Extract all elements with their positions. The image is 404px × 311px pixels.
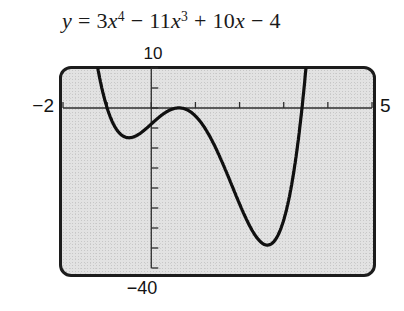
- equation-segment: + 10: [188, 8, 235, 33]
- equation-segment: − 4: [245, 8, 281, 33]
- equation-segment: − 11: [125, 8, 171, 33]
- x-min-label: −2: [22, 96, 54, 117]
- calculator-graph-figure: y = 3x4 − 11x3 + 10x − 4 10 −40 −2 5: [0, 0, 404, 311]
- x-max-label: 5: [380, 96, 396, 117]
- y-min-label: −40: [117, 279, 167, 299]
- equation-segment: x: [235, 8, 245, 33]
- y-max-label: 10: [139, 45, 167, 64]
- equation-title: y = 3x4 − 11x3 + 10x − 4: [62, 8, 362, 34]
- equation-segment: = 3: [72, 8, 108, 33]
- calculator-screen: [59, 66, 376, 277]
- equation-segment: x: [108, 8, 118, 33]
- equation-segment: x: [171, 8, 181, 33]
- equation-segment: y: [62, 8, 72, 33]
- equation-segment: 4: [118, 9, 125, 24]
